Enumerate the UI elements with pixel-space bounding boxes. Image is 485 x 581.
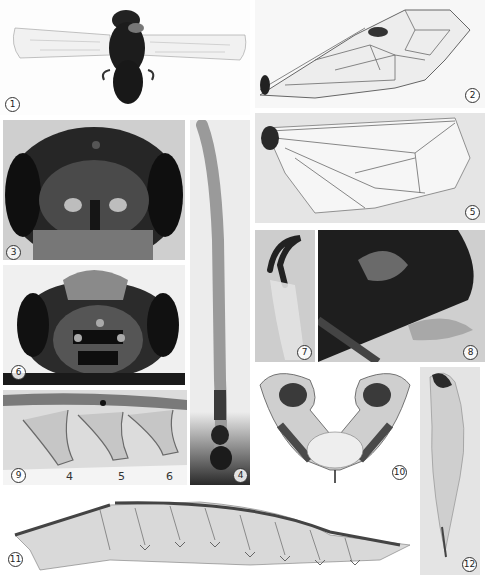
panel-label-5: 5 [465, 205, 480, 220]
panel-label-11: 11 [8, 552, 23, 567]
segment-number-4: 4 [66, 470, 73, 483]
panel-label-6: 6 [11, 365, 26, 380]
antenna-illustration [190, 120, 250, 485]
panel-4-antenna: 4 [190, 120, 250, 485]
fore-wing-illustration [255, 0, 485, 108]
panel-12-penis-valve: 12 [420, 367, 480, 575]
penis-valve-illustration [420, 367, 480, 575]
panel-label-2: 2 [465, 88, 480, 103]
panel-6-head-dorsal: 6 [3, 265, 185, 385]
hind-wing-illustration [255, 113, 485, 223]
panel-9-lancet-detail: 9 4 5 6 [3, 390, 187, 485]
panel-3-head-frontal: 3 [3, 120, 185, 260]
panel-label-4: 4 [233, 468, 248, 483]
segment-number-5: 5 [118, 470, 125, 483]
panel-7-tarsal-claw: 7 [255, 230, 315, 362]
panel-8-abdomen-apex: 8 [318, 230, 485, 362]
panel-11-lancet: 11 [0, 490, 415, 575]
panel-1-habitus: 1 [0, 0, 250, 115]
lancet-illustration [0, 490, 415, 575]
panel-label-3: 3 [6, 245, 21, 260]
genital-capsule-illustration [255, 365, 415, 485]
tarsal-claw-illustration [255, 230, 315, 362]
panel-label-9: 9 [11, 468, 26, 483]
head-frontal-illustration [3, 120, 185, 260]
panel-label-8: 8 [463, 345, 478, 360]
segment-number-6: 6 [166, 470, 173, 483]
panel-label-10: 10 [392, 465, 407, 480]
abdomen-apex-illustration [318, 230, 485, 362]
panel-10-genital-capsule: 10 [255, 365, 415, 485]
panel-label-1: 1 [5, 97, 20, 112]
habitus-illustration [0, 0, 250, 115]
panel-5-hind-wing: 5 [255, 113, 485, 223]
panel-2-fore-wing: 2 [255, 0, 485, 108]
head-dorsal-illustration [3, 265, 185, 385]
lancet-detail-illustration [3, 390, 187, 485]
panel-label-12: 12 [462, 557, 477, 572]
panel-label-7: 7 [297, 345, 312, 360]
